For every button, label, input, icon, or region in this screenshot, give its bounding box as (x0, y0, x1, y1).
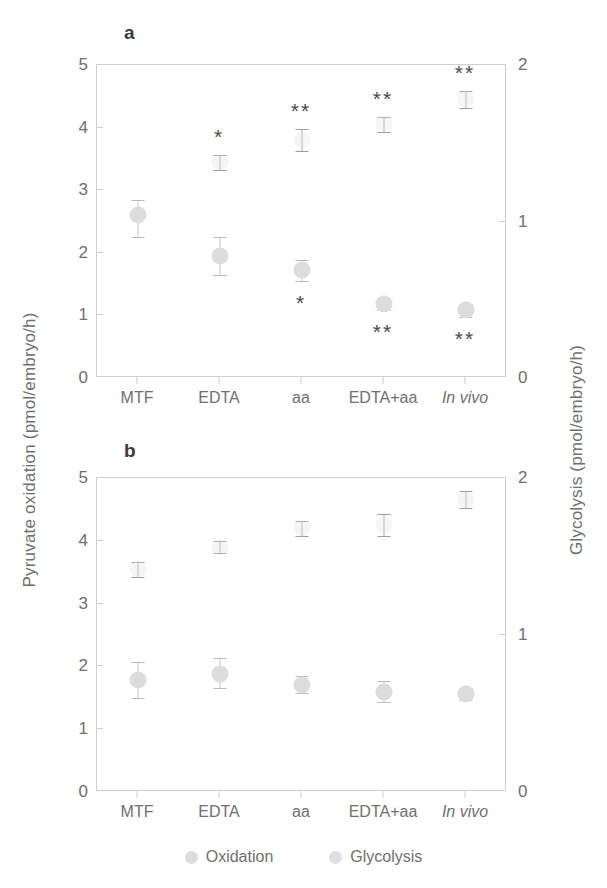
y-right-tick-label: 1 (518, 212, 542, 229)
panel-b-label: b (124, 440, 136, 462)
significance-marker: ** (291, 100, 311, 121)
y-left-tick-label: 1 (64, 720, 88, 737)
data-point-glycolysis-4 (97, 478, 505, 790)
figure-root: Pyruvate oxidation (pmol/embryo/h) Glyco… (0, 0, 607, 888)
y-left-tick-label: 5 (64, 469, 88, 486)
legend-item-glycolysis: Glycolysis (329, 848, 422, 866)
y-left-tick-mark (96, 665, 103, 666)
glycolysis-marker (458, 491, 475, 508)
y-left-tick-label: 2 (64, 243, 88, 260)
x-axis-label-edta-aa: EDTA+aa (349, 389, 418, 407)
y-left-tick-mark (96, 127, 103, 128)
y-left-tick-mark (96, 603, 103, 604)
y-left-tick-label: 3 (64, 181, 88, 198)
y-left-tick-mark (96, 189, 103, 190)
glycolysis-marker (458, 91, 475, 108)
x-tick-mark (219, 377, 220, 384)
y-left-tick-mark (96, 540, 103, 541)
y-right-tick-mark (499, 634, 506, 635)
x-tick-mark (137, 791, 138, 798)
y-left-tick-mark (96, 252, 103, 253)
legend-label-oxidation: Oxidation (206, 848, 274, 866)
x-axis-label-aa: aa (292, 803, 310, 821)
circle-marker-icon (329, 851, 342, 864)
x-tick-mark (137, 377, 138, 384)
x-axis-label-edta: EDTA (198, 389, 239, 407)
y-left-tick-mark (96, 728, 103, 729)
y-left-tick-mark (96, 314, 103, 315)
panel-a: a 012345 012 MTFEDTAaaEDTA+aaIn vivo****… (0, 0, 607, 420)
significance-marker: * (214, 126, 224, 147)
significance-marker: ** (455, 328, 475, 349)
significance-marker: ** (373, 321, 393, 342)
y-left-tick-label: 0 (64, 369, 88, 386)
y-right-tick-label: 0 (518, 369, 542, 386)
legend-label-glycolysis: Glycolysis (350, 848, 422, 866)
x-tick-mark (383, 791, 384, 798)
x-axis-label-mtf: MTF (121, 803, 154, 821)
legend-item-oxidation: Oxidation (185, 848, 274, 866)
y-right-tick-label: 0 (518, 783, 542, 800)
x-axis-label-mtf: MTF (121, 389, 154, 407)
x-tick-mark (465, 377, 466, 384)
y-left-tick-label: 4 (64, 531, 88, 548)
x-tick-mark (465, 791, 466, 798)
significance-marker: ** (455, 62, 475, 83)
y-left-tick-label: 0 (64, 783, 88, 800)
significance-marker: * (296, 292, 306, 313)
x-axis-label-aa: aa (292, 389, 310, 407)
x-tick-mark (301, 791, 302, 798)
y-right-tick-label: 2 (518, 56, 542, 73)
x-axis-label-edta: EDTA (198, 803, 239, 821)
y-left-tick-label: 4 (64, 118, 88, 135)
panel-b-plot-area (96, 477, 506, 791)
panel-a-label: a (124, 22, 135, 44)
significance-marker: ** (373, 88, 393, 109)
legend: Oxidation Glycolysis (0, 848, 607, 866)
panel-b: b 012345 012 MTFEDTAaaEDTA+aaIn vivo (0, 412, 607, 832)
x-tick-mark (219, 791, 220, 798)
y-right-tick-mark (499, 221, 506, 222)
x-axis-label-in-vivo: In vivo (442, 389, 488, 407)
y-left-tick-label: 5 (64, 56, 88, 73)
x-axis-label-edta-aa: EDTA+aa (349, 803, 418, 821)
y-left-tick-label: 2 (64, 657, 88, 674)
x-tick-mark (383, 377, 384, 384)
panel-b-data-layer (97, 478, 505, 790)
x-axis-label-in-vivo: In vivo (442, 803, 488, 821)
y-right-tick-label: 1 (518, 626, 542, 643)
x-tick-mark (301, 377, 302, 384)
y-left-tick-label: 3 (64, 594, 88, 611)
y-right-tick-label: 2 (518, 469, 542, 486)
circle-marker-icon (185, 851, 198, 864)
y-left-tick-label: 1 (64, 306, 88, 323)
